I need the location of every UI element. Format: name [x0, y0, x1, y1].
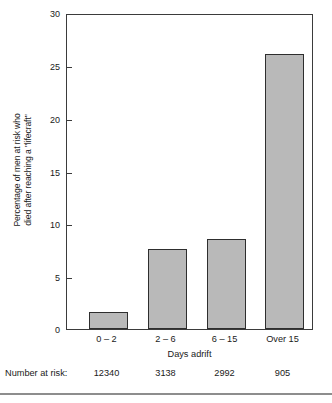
y-tick-label-20: 20: [40, 116, 60, 125]
y-axis-label: Percentage of men at risk who died after…: [6, 0, 40, 340]
y-tick-label-15: 15: [40, 169, 60, 178]
bar-over-15: [265, 54, 304, 329]
y-tick-label-25: 25: [40, 63, 60, 72]
bottom-divider: [0, 393, 332, 395]
bar-2-6: [148, 249, 187, 329]
figure-bar-chart: Percentage of men at risk who died after…: [0, 0, 332, 403]
number-at-risk-value-3: 905: [242, 368, 323, 378]
bars-layer: [67, 15, 312, 329]
y-tick-label-5: 5: [40, 274, 60, 283]
x-axis-label: Days adrift: [66, 349, 313, 359]
y-tick-label-10: 10: [40, 221, 60, 230]
y-axis-label-line1: Percentage of men at risk who: [12, 113, 23, 226]
y-tick-label-30: 30: [40, 10, 60, 19]
y-tick-label-0: 0: [40, 326, 60, 335]
bar-6-15: [207, 239, 246, 329]
bar-0-2: [89, 312, 128, 329]
y-axis-label-line2: died after reaching a "lifecraft": [23, 113, 34, 226]
number-at-risk-row: Number at risk: 12340 3138 2992 905: [0, 368, 332, 382]
plot-area: [66, 14, 313, 330]
x-tick-label-3: Over 15: [242, 334, 323, 345]
number-at-risk-title: Number at risk:: [5, 368, 67, 378]
